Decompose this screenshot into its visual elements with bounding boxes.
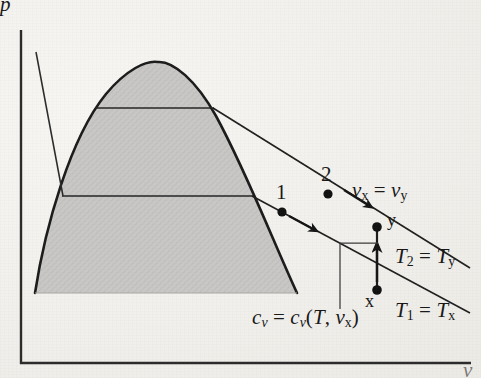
compressed-liquid-isotherm	[36, 52, 63, 196]
state-point-x-label: x	[365, 292, 374, 310]
state-point-y-dot	[372, 222, 382, 232]
vapor-dome-fill	[35, 62, 297, 293]
isotherm-T1-label: T1 = Tx	[395, 300, 455, 323]
isotherm-T1-arrow	[289, 216, 313, 229]
y-axis-label: p	[0, 0, 11, 15]
specific-heat-label: cv = cv(T, vx)	[252, 307, 359, 330]
specific-volume-equality-label: vx = vy	[352, 180, 407, 203]
pv-diagram-figure: p v 1 2 x y vx = vy T2 = Ty T1 = Tx cv =…	[0, 0, 481, 378]
state-point-2-dot	[323, 189, 332, 198]
state-point-y-label: y	[387, 211, 396, 229]
state-point-2-label: 2	[321, 164, 332, 185]
x-axis-label: v	[463, 360, 472, 378]
state-point-1-label: 1	[276, 182, 287, 203]
state-point-1-dot	[277, 207, 286, 216]
isotherm-T2-label: T2 = Ty	[395, 246, 455, 269]
